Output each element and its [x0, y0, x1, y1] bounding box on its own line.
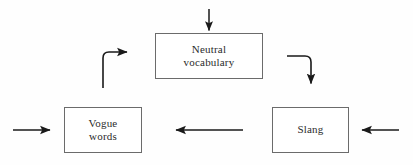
node-vogue-words-label: Vogue words [89, 117, 118, 144]
edge-vogue-to-neutral [103, 52, 127, 88]
edge-neutral-to-slang [287, 56, 311, 84]
node-slang: Slang [272, 107, 349, 153]
node-neutral-vocabulary: Neutral vocabulary [155, 33, 263, 79]
node-neutral-vocabulary-label: Neutral vocabulary [184, 43, 235, 70]
diagram-canvas: Neutral vocabulary Vogue words Slang [0, 0, 413, 165]
node-slang-label: Slang [297, 123, 323, 136]
node-vogue-words: Vogue words [64, 107, 142, 153]
edge-layer [0, 0, 413, 165]
